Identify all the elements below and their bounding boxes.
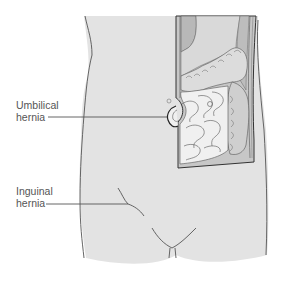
torso-illustration — [0, 0, 282, 281]
umbilical-label-line2: hernia — [16, 111, 59, 123]
inguinal-hernia-label: Inguinal hernia — [16, 185, 53, 209]
inguinal-label-line1: Inguinal — [16, 185, 53, 197]
small-intestine — [180, 86, 228, 164]
umbilical-label-line1: Umbilical — [16, 99, 59, 111]
hernia-diagram: Umbilical hernia Inguinal hernia — [0, 0, 282, 281]
umbilical-hernia-label: Umbilical hernia — [16, 99, 59, 123]
descending-colon — [227, 82, 249, 155]
inguinal-label-line2: hernia — [16, 197, 53, 209]
